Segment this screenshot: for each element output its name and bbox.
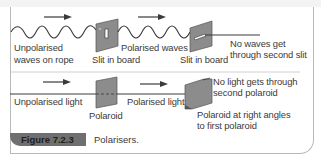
label-slit-2: Slit in board	[180, 55, 228, 66]
label-polaroid-2-2: to first polaroid	[197, 121, 257, 132]
label-no-waves-2: through second slit	[230, 50, 307, 61]
polaroid-1	[96, 77, 117, 108]
unpolarised-wave	[11, 26, 96, 38]
label-unpolarised-light: Unpolarised light	[14, 97, 82, 108]
direction-arrow-bottom-1	[43, 79, 71, 85]
label-slit-1: Slit in board	[92, 55, 140, 66]
polaroid-2	[185, 79, 212, 109]
figure-number: Figure 7.2.3	[21, 134, 74, 145]
label-polarised-light: Polarised light	[127, 97, 184, 108]
direction-arrow-top-1	[44, 14, 72, 20]
label-polaroid-2-1: Polaroid at right angles	[197, 110, 291, 121]
label-unpolarised-rope-2: waves on rope	[14, 55, 74, 66]
slit-board-1	[96, 19, 118, 52]
label-polarised-waves: Polarised waves	[121, 43, 188, 54]
direction-arrow-top-2	[138, 14, 166, 20]
label-no-light-2: second polaroid	[213, 88, 278, 99]
polarised-wave	[118, 26, 190, 38]
slit-board-2	[190, 21, 212, 52]
label-polaroid-1: Polaroid	[89, 111, 123, 122]
label-no-waves-1: No waves get	[230, 39, 286, 50]
label-no-light-1: No light gets through	[213, 77, 297, 88]
label-unpolarised-rope-1: Unpolarised	[14, 43, 63, 54]
figure-caption: Polarisers.	[94, 134, 139, 145]
direction-arrow-bottom-2	[140, 81, 168, 87]
